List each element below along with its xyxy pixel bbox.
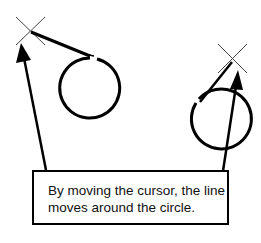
left-cursor-x-icon <box>16 17 45 45</box>
left-pointer-arrow <box>16 43 46 170</box>
diagram-canvas: By moving the cursor, the line moves aro… <box>0 0 261 243</box>
caption-line-1: By moving the cursor, the line <box>48 182 227 199</box>
caption-box: By moving the cursor, the line moves aro… <box>32 170 229 225</box>
caption-line-2: moves around the circle. <box>48 199 227 216</box>
right-circle-with-tangent-line <box>191 62 251 149</box>
right-pointer-arrow <box>223 70 243 171</box>
right-cursor-x-icon <box>218 44 247 73</box>
